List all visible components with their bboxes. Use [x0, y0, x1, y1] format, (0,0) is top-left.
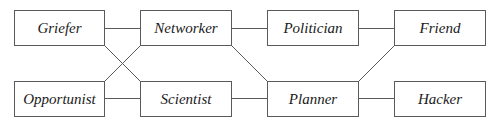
node-friend: Friend [395, 11, 486, 46]
node-label-friend: Friend [419, 20, 461, 36]
node-griefer: Griefer [15, 11, 105, 46]
node-label-scientist: Scientist [161, 91, 213, 107]
node-hacker: Hacker [395, 82, 486, 117]
node-label-planner: Planner [288, 91, 337, 107]
node-label-griefer: Griefer [37, 20, 81, 36]
node-politician: Politician [268, 11, 359, 46]
node-scientist: Scientist [141, 82, 232, 117]
node-networker: Networker [141, 11, 232, 46]
node-label-hacker: Hacker [417, 91, 462, 107]
node-label-opportunist: Opportunist [23, 91, 96, 107]
node-planner: Planner [268, 82, 359, 117]
node-label-politician: Politician [282, 20, 342, 36]
edge-planner-friend [359, 46, 395, 82]
node-label-networker: Networker [153, 20, 217, 36]
node-opportunist: Opportunist [15, 82, 105, 117]
edge-networker-planner [232, 46, 268, 82]
role-graph-diagram: GrieferNetworkerPoliticianFriendOpportun… [0, 0, 498, 122]
